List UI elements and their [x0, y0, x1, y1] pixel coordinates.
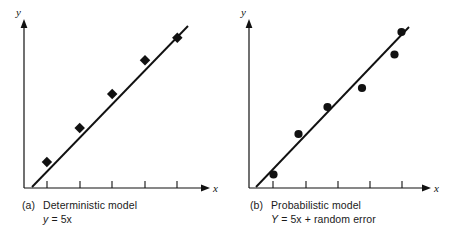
caption-a: (a)Deterministic model y = 5x — [22, 198, 228, 226]
figure-container: y x (a)Deterministic model y = 5x — [0, 0, 456, 245]
caption-b-tag: (b) — [250, 198, 268, 212]
caption-b-line2: Y = 5x + random error — [271, 212, 456, 226]
x-axis-label-b: x — [433, 182, 439, 194]
x-axis-ticks-a — [47, 181, 177, 188]
caption-a-text: Deterministic model — [43, 199, 137, 211]
caption-b-text: Probabilistic model — [271, 199, 361, 211]
y-axis-label-a: y — [15, 6, 21, 18]
data-points-b — [269, 28, 405, 179]
caption-b: (b)Probabilistic model Y = 5x + random e… — [250, 198, 456, 226]
caption-b-formula-rest: = 5x + random error — [278, 213, 376, 225]
y-axis-arrow-b — [246, 19, 253, 28]
x-axis-label-a: x — [212, 182, 218, 194]
caption-a-line1: (a)Deterministic model — [22, 198, 228, 212]
model-line-b — [256, 27, 409, 187]
caption-a-formula-rest: = 5x — [48, 213, 72, 225]
panel-probabilistic: y x (b)Probabilistic model Y = 5x + rand… — [228, 0, 456, 245]
panel-deterministic: y x (a)Deterministic model y = 5x — [0, 0, 228, 245]
y-axis-label-b: y — [240, 6, 246, 18]
y-axis-arrow-a — [21, 19, 28, 28]
plot-a-svg: y x — [0, 0, 228, 196]
x-axis-arrow-a — [201, 185, 210, 192]
model-line-a — [32, 26, 188, 187]
caption-b-line1: (b)Probabilistic model — [250, 198, 456, 212]
x-axis-arrow-b — [422, 185, 431, 192]
plot-b-svg: y x — [228, 0, 456, 196]
caption-a-line2: y = 5x — [43, 212, 228, 226]
x-axis-ticks-b — [273, 181, 402, 188]
caption-a-tag: (a) — [22, 198, 40, 212]
